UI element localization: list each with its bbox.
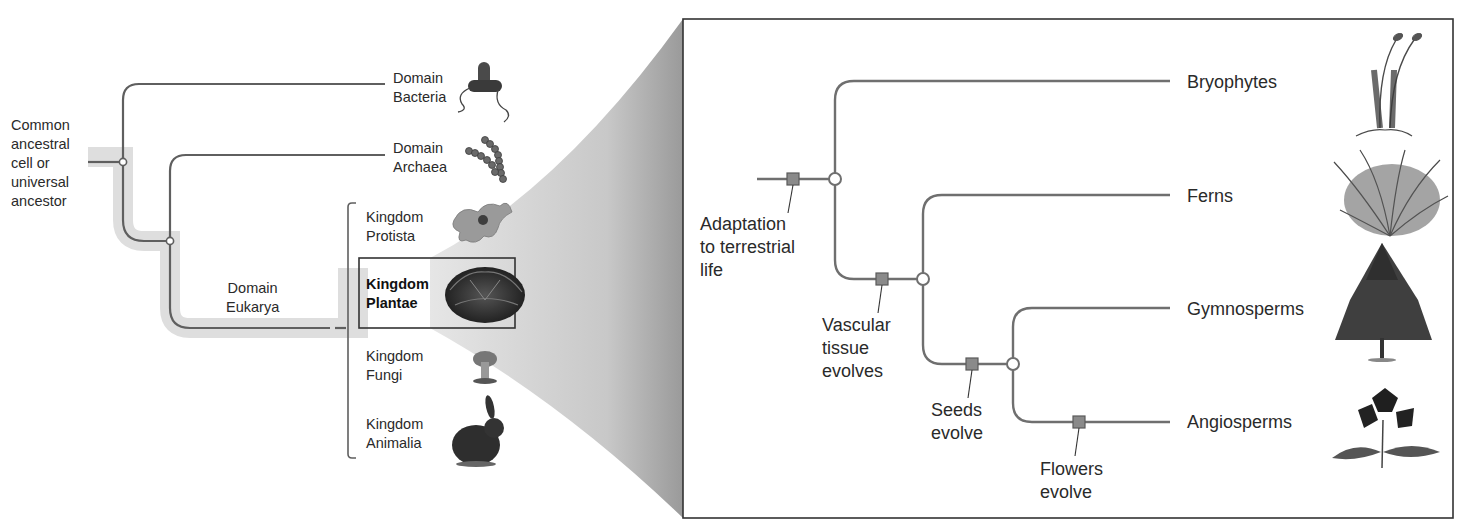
plant-phylogeny-panel	[683, 19, 1453, 518]
root-ancestor-label: Common ancestral cell or universal ances…	[11, 116, 70, 211]
domain-eukarya-label: Domain Eukarya	[226, 279, 279, 317]
node-seed-plants	[1007, 358, 1019, 370]
branch-archaea	[170, 155, 385, 238]
node-vascular-plants	[917, 273, 929, 285]
event-vascular-label: Vascular tissue evolves	[822, 314, 891, 383]
bacterium-icon	[458, 62, 509, 122]
mushroom-icon	[473, 351, 497, 384]
event-seeds-label: Seeds evolve	[931, 399, 983, 445]
event-terrestrial-label: Adaptation to terrestrial life	[700, 213, 795, 282]
rabbit-icon	[452, 394, 504, 467]
domain-bacteria-label: Domain Bacteria	[393, 69, 446, 107]
kingdom-protista-label: Kingdom Protista	[366, 208, 423, 246]
taxon-gymnosperms-label: Gymnosperms	[1187, 298, 1304, 320]
node-universal-ancestor	[119, 158, 126, 165]
lineage-highlight-band	[88, 157, 345, 328]
kingdom-fungi-label: Kingdom Fungi	[366, 347, 423, 385]
event-flowers-label: Flowers evolve	[1040, 458, 1103, 504]
kingdom-animalia-label: Kingdom Animalia	[366, 415, 423, 453]
taxon-bryophytes-label: Bryophytes	[1187, 71, 1277, 93]
kingdom-plantae-label: Kingdom Plantae	[366, 275, 429, 313]
branch-bacteria	[123, 84, 385, 162]
node-land-plants	[829, 173, 841, 185]
node-archaea-eukarya	[166, 237, 173, 244]
plant-icon	[445, 267, 525, 323]
taxon-angiosperms-label: Angiosperms	[1187, 411, 1292, 433]
archaea-chain-icon	[466, 137, 507, 183]
domain-archaea-label: Domain Archaea	[393, 139, 447, 177]
taxon-ferns-label: Ferns	[1187, 185, 1233, 207]
